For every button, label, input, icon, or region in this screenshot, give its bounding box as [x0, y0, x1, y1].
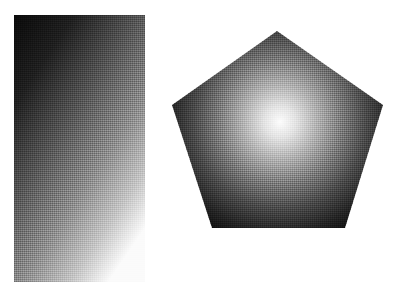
- image-canvas: [0, 0, 407, 292]
- gradient-rectangle: [14, 15, 145, 282]
- shape-layer: [0, 0, 407, 292]
